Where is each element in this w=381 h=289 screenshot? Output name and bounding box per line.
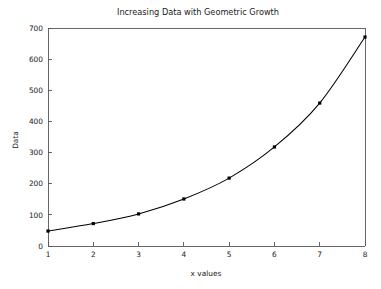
chart-container: Increasing Data with Geometric Growth 01… bbox=[0, 0, 381, 289]
y-tick-label: 500 bbox=[29, 86, 43, 95]
data-point-marker bbox=[363, 35, 366, 38]
y-tick-label: 100 bbox=[29, 211, 43, 220]
y-tick-label: 400 bbox=[29, 117, 43, 126]
data-point-marker bbox=[318, 101, 321, 104]
y-tick-label: 600 bbox=[29, 55, 43, 64]
x-tick-label: 6 bbox=[272, 250, 277, 259]
y-tick-label: 200 bbox=[29, 179, 43, 188]
data-point-marker bbox=[273, 145, 276, 148]
line-chart: Increasing Data with Geometric Growth 01… bbox=[0, 0, 381, 289]
chart-title: Increasing Data with Geometric Growth bbox=[117, 7, 279, 17]
x-tick-label: 4 bbox=[182, 250, 187, 259]
y-tick-label: 300 bbox=[29, 148, 43, 157]
x-tick-label: 1 bbox=[46, 250, 51, 259]
y-tick-label: 0 bbox=[38, 242, 43, 251]
data-point-marker bbox=[137, 212, 140, 215]
data-point-marker bbox=[182, 197, 185, 200]
data-point-marker bbox=[92, 222, 95, 225]
x-axis-label: x values bbox=[191, 269, 222, 278]
data-point-marker bbox=[46, 229, 49, 232]
data-point-marker bbox=[228, 177, 231, 180]
y-tick-label: 700 bbox=[29, 24, 43, 33]
x-tick-label: 7 bbox=[317, 250, 322, 259]
x-tick-label: 5 bbox=[227, 250, 232, 259]
y-axis-label: Data bbox=[11, 131, 20, 149]
x-tick-label: 2 bbox=[91, 250, 96, 259]
x-tick-label: 3 bbox=[136, 250, 141, 259]
x-tick-label: 8 bbox=[363, 250, 368, 259]
